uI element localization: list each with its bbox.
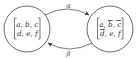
- node-right-row2: d, e, f: [100, 29, 122, 38]
- node-left-row1: a, b, c: [16, 20, 38, 29]
- edge-alpha: α: [45, 2, 89, 16]
- node-left-row2: d, e, f: [17, 29, 39, 38]
- node-right: a, b, c d, e, f: [87, 6, 133, 52]
- overlined-c: c: [117, 20, 121, 29]
- edge-alpha-arrow: [45, 9, 89, 15]
- edge-beta: β: [48, 43, 92, 58]
- node-right-row1: a, b, c: [99, 20, 121, 29]
- node-left: a, b, c d, e, f: [4, 6, 50, 52]
- edge-alpha-label: α: [66, 2, 71, 10]
- edge-beta-arrow: [48, 43, 92, 49]
- state-diagram: a, b, c d, e, f a, b, c d, e, f α β: [0, 0, 137, 58]
- edge-beta-label: β: [66, 50, 71, 58]
